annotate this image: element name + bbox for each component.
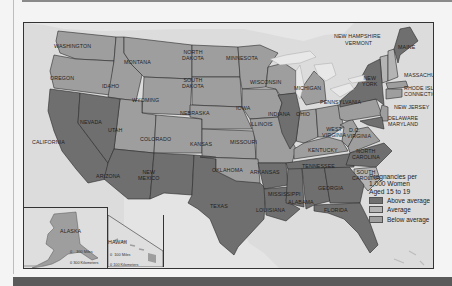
hawaii-scale-km: 0 100 Kilometers bbox=[110, 263, 139, 267]
label-montana: MONTANA bbox=[124, 59, 151, 65]
label-west-virginia: WESTVIRGINIA bbox=[322, 126, 346, 138]
top-divider bbox=[22, 0, 452, 2]
hawaii-inset: HAWAII 0 100 Miles 0 100 Kilometers bbox=[107, 215, 164, 267]
label-new-york: NEWYORK bbox=[362, 75, 377, 87]
alaska-inset: ALASKA 0 300 Miles 0 300 Kilometers bbox=[24, 207, 108, 268]
label-north-dakota: NORTHDAKOTA bbox=[182, 49, 204, 61]
label-tennessee: TENNESSEE bbox=[302, 163, 335, 169]
legend-label-above-average: Above average bbox=[387, 197, 430, 204]
label-mississippi: MISSISSIPPI bbox=[268, 191, 301, 197]
label-oregon: OREGON bbox=[50, 75, 74, 81]
label-minnesota: MINNESOTA bbox=[226, 55, 258, 61]
label-vermont: VERMONT bbox=[345, 40, 372, 46]
legend-swatch-above-average bbox=[369, 197, 383, 204]
legend-item-above-average: Above average bbox=[369, 196, 434, 205]
label-kentucky: KENTUCKY bbox=[308, 147, 338, 153]
label-massachusetts: MASSACHUSETTS bbox=[404, 72, 434, 78]
label-maryland: MARYLAND bbox=[388, 121, 418, 127]
map-legend: Pregnancies per 1,000 Women Aged 15 to 1… bbox=[369, 173, 434, 224]
label-kansas: KANSAS bbox=[190, 141, 212, 147]
label-illinois: ILLINOIS bbox=[250, 121, 273, 127]
label-north-carolina: NORTHCAROLINA bbox=[352, 148, 380, 160]
label-alabama: ALABAMA bbox=[288, 199, 314, 205]
hawaii-scale-miles: 0 100 Miles bbox=[110, 253, 131, 257]
bottom-divider bbox=[13, 277, 452, 286]
label-california: CALIFORNIA bbox=[32, 139, 65, 145]
us-teen-pregnancy-map: WASHINGTON OREGON CALIFORNIA NEVADA IDAH… bbox=[23, 22, 434, 269]
legend-item-below-average: Below average bbox=[369, 215, 434, 224]
label-wisconsin: WISCONSIN bbox=[250, 79, 282, 85]
label-indiana: INDIANA bbox=[268, 111, 290, 117]
label-alaska: ALASKA bbox=[60, 228, 81, 234]
alaska-shape bbox=[24, 208, 107, 268]
legend-title-line3: Aged 15 to 19 bbox=[369, 188, 434, 195]
legend-swatch-below-average bbox=[369, 216, 383, 223]
label-arizona: ARIZONA bbox=[96, 173, 120, 179]
label-hawaii: HAWAII bbox=[108, 239, 127, 245]
label-nevada: NEVADA bbox=[80, 119, 102, 125]
label-idaho: IDAHO bbox=[102, 83, 119, 89]
label-arkansas: ARKANSAS bbox=[250, 169, 280, 175]
label-connecticut: CONNECTICUT bbox=[404, 91, 434, 97]
left-margin-rule bbox=[13, 0, 14, 274]
label-wyoming: WYOMING bbox=[132, 97, 159, 103]
legend-label-average: Average bbox=[387, 206, 411, 213]
label-michigan: MICHIGAN bbox=[294, 85, 321, 91]
label-louisiana: LOUISIANA bbox=[256, 207, 285, 213]
label-utah: UTAH bbox=[108, 127, 122, 133]
legend-swatch-average bbox=[369, 206, 383, 213]
label-new-hampshire: NEW HAMPSHIRE bbox=[334, 33, 381, 39]
label-south-dakota: SOUTHDAKOTA bbox=[182, 77, 204, 89]
label-texas: TEXAS bbox=[210, 203, 228, 209]
label-new-mexico: NEWMEXICO bbox=[138, 169, 160, 181]
label-florida: FLORIDA bbox=[324, 207, 348, 213]
label-oklahoma: OKLAHOMA bbox=[212, 167, 243, 173]
label-nebraska: NEBRASKA bbox=[180, 110, 210, 116]
label-colorado: COLORADO bbox=[140, 136, 171, 142]
alaska-scale-miles: 0 300 Miles bbox=[70, 250, 93, 254]
legend-label-below-average: Below average bbox=[387, 216, 429, 223]
alaska-scale-km: 0 300 Kilometers bbox=[70, 261, 99, 265]
legend-title-line1: Pregnancies per bbox=[369, 173, 434, 180]
label-ohio: OHIO bbox=[296, 111, 310, 117]
label-iowa: IOWA bbox=[236, 105, 250, 111]
label-pennsylvania: PENNSYLVANIA bbox=[320, 99, 361, 105]
label-maine: MAINE bbox=[398, 44, 415, 50]
label-washington: WASHINGTON bbox=[54, 43, 91, 49]
label-georgia: GEORGIA bbox=[318, 185, 343, 191]
legend-title-line2: 1,000 Women bbox=[369, 180, 434, 187]
legend-item-average: Average bbox=[369, 205, 434, 214]
label-new-jersey: NEW JERSEY bbox=[394, 104, 429, 110]
label-virginia: VIRGINIA bbox=[347, 133, 371, 139]
label-missouri: MISSOURI bbox=[230, 139, 257, 145]
